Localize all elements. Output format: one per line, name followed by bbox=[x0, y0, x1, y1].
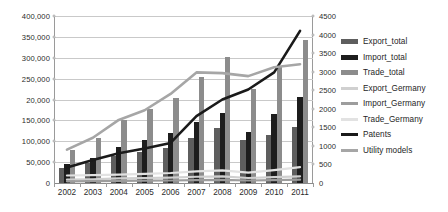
y-axis-left-tick bbox=[53, 140, 56, 143]
y-axis-left-tick-label: 0 bbox=[2, 179, 50, 188]
y-axis-left-tick-label: 250,000 bbox=[2, 74, 50, 83]
chart-legend: Export_totalImport_totalTrade_totalExpor… bbox=[341, 34, 445, 158]
legend-item[interactable]: Import_total bbox=[341, 50, 445, 66]
legend-item-label: Trade_total bbox=[363, 68, 405, 77]
legend-swatch-icon bbox=[341, 55, 358, 60]
legend-item[interactable]: Export_Germany bbox=[341, 81, 445, 97]
y-axis-right-tick-label: 4500 bbox=[319, 12, 336, 21]
y-axis-right-tick bbox=[312, 15, 315, 18]
y-axis-right-tick-label: 3500 bbox=[319, 49, 336, 58]
y-axis-left-tick bbox=[53, 77, 56, 80]
legend-item-label: Utility models bbox=[363, 146, 412, 155]
x-axis-tick bbox=[313, 183, 314, 187]
y-axis-right-tick bbox=[312, 163, 315, 166]
y-axis-left-tick bbox=[53, 161, 56, 164]
x-axis-tick bbox=[80, 183, 81, 187]
legend-item-label: Export_total bbox=[363, 37, 407, 46]
y-axis-left-tick bbox=[53, 35, 56, 38]
legend-swatch-icon bbox=[341, 118, 358, 121]
x-axis-tick bbox=[235, 183, 236, 187]
legend-item-label: Import_Germany bbox=[363, 99, 425, 108]
legend-item[interactable]: Import_Germany bbox=[341, 96, 445, 112]
legend-swatch-icon bbox=[341, 102, 358, 105]
legend-item[interactable]: Trade_total bbox=[341, 65, 445, 81]
x-axis-tick bbox=[209, 183, 210, 187]
y-axis-right-tick-label: 1000 bbox=[319, 141, 336, 150]
chart-container: 050,000100,000150,00020,000250,000300,00… bbox=[0, 0, 448, 212]
x-axis-tick-label: 2005 bbox=[136, 188, 154, 197]
plot-area bbox=[54, 16, 313, 183]
x-axis-tick bbox=[158, 183, 159, 187]
x-axis-tick bbox=[132, 183, 133, 187]
y-axis-right-tick-label: 3000 bbox=[319, 67, 336, 76]
legend-swatch-icon bbox=[341, 39, 358, 44]
y-axis-right-tick-label: 4000 bbox=[319, 30, 336, 39]
y-axis-right-tick bbox=[312, 70, 315, 73]
y-axis-right-tick bbox=[312, 126, 315, 129]
x-axis-tick-label: 2006 bbox=[161, 188, 179, 197]
x-axis-tick-label: 2010 bbox=[265, 188, 283, 197]
y-axis-right-tick bbox=[312, 107, 315, 110]
y-axis-left-tick-label: 100,000 bbox=[2, 137, 50, 146]
x-axis-tick-label: 2007 bbox=[187, 188, 205, 197]
y-axis-right-tick bbox=[312, 89, 315, 92]
series-line bbox=[67, 31, 300, 168]
x-axis-tick bbox=[106, 183, 107, 187]
x-axis-tick-label: 2009 bbox=[239, 188, 257, 197]
x-axis-tick-label: 2008 bbox=[213, 188, 231, 197]
y-axis-left-tick-label: 350,000 bbox=[2, 32, 50, 41]
x-axis-tick bbox=[287, 183, 288, 187]
legend-item-label: Trade_Germany bbox=[363, 115, 423, 124]
y-axis-right-tick-label: 1500 bbox=[319, 123, 336, 132]
y-axis-left-tick-label: 300,000 bbox=[2, 53, 50, 62]
x-axis-tick bbox=[184, 183, 185, 187]
legend-item[interactable]: Utility models bbox=[341, 143, 445, 159]
legend-swatch-icon bbox=[341, 133, 358, 136]
legend-item[interactable]: Patents bbox=[341, 127, 445, 143]
x-axis-tick-label: 2003 bbox=[84, 188, 102, 197]
legend-swatch-icon bbox=[341, 70, 358, 75]
y-axis-right-tick-label: 0 bbox=[319, 179, 323, 188]
y-axis-left-tick-label: 150,000 bbox=[2, 116, 50, 125]
legend-swatch-icon bbox=[341, 149, 358, 152]
series-line bbox=[67, 167, 300, 175]
y-axis-right-tick-label: 2500 bbox=[319, 86, 336, 95]
y-axis-left-tick bbox=[53, 56, 56, 59]
y-axis-left-tick-label: 20,000 bbox=[2, 95, 50, 104]
y-axis-right-tick-label: 500 bbox=[319, 160, 332, 169]
legend-swatch-icon bbox=[341, 87, 358, 90]
y-axis-right-tick-label: 2000 bbox=[319, 104, 336, 113]
lines-layer bbox=[54, 16, 313, 183]
legend-item[interactable]: Export_total bbox=[341, 34, 445, 50]
x-axis-tick bbox=[261, 183, 262, 187]
x-axis-tick-label: 2011 bbox=[291, 188, 309, 197]
legend-item[interactable]: Trade_Germany bbox=[341, 112, 445, 128]
x-axis-tick-label: 2004 bbox=[110, 188, 128, 197]
y-axis-left-tick-label: 50,000 bbox=[2, 158, 50, 167]
y-axis-right-tick bbox=[312, 33, 315, 36]
y-axis-right-tick bbox=[312, 144, 315, 147]
x-axis-tick bbox=[54, 183, 55, 187]
x-axis-tick-label: 2002 bbox=[58, 188, 76, 197]
y-axis-left-tick-label: 400,000 bbox=[2, 12, 50, 21]
y-axis-right-tick bbox=[312, 52, 315, 55]
y-axis-left-tick bbox=[53, 98, 56, 101]
y-axis-left-tick bbox=[53, 119, 56, 122]
legend-item-label: Patents bbox=[363, 130, 391, 139]
legend-item-label: Import_total bbox=[363, 53, 407, 62]
y-axis-left-tick bbox=[53, 15, 56, 18]
legend-item-label: Export_Germany bbox=[363, 84, 426, 93]
